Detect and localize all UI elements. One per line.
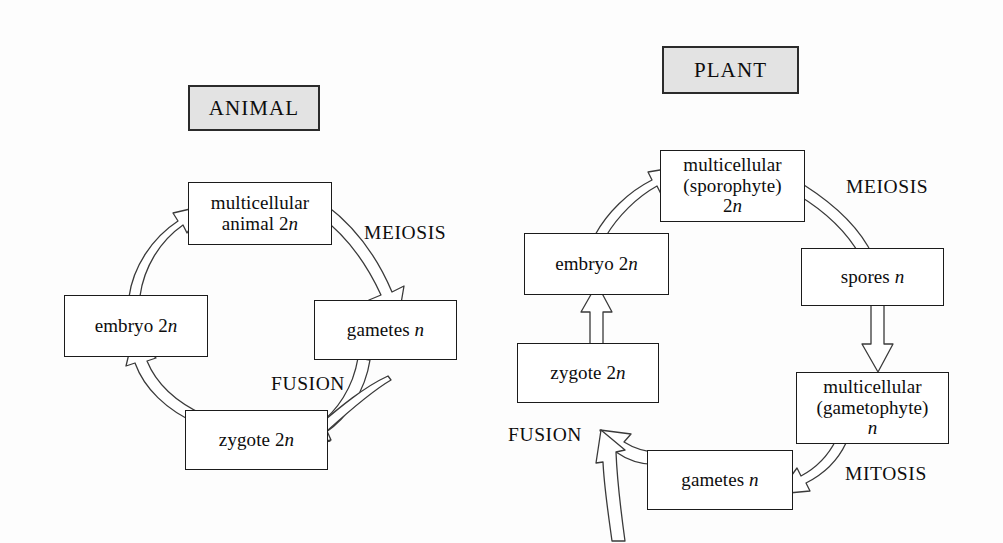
plant-node-spores: spores n <box>801 248 944 306</box>
animal-node-multicellular: multicellular animal 2n <box>188 182 332 245</box>
animal-node-zygote: zygote 2n <box>185 410 328 470</box>
plant-node-zygote-label: zygote 2n <box>546 363 629 384</box>
plant-label-meiosis: MEIOSIS <box>846 176 928 198</box>
animal-label-fusion: FUSION <box>271 373 345 395</box>
plant-node-gametophyte: multicellular (gametophyte) n <box>796 372 949 444</box>
plant-node-embryo: embryo 2n <box>524 233 669 295</box>
plant-node-gametes-label: gametes n <box>677 470 762 491</box>
plant-header-label: PLANT <box>694 58 767 83</box>
animal-node-gametes-label: gametes n <box>343 320 428 341</box>
plant-arrow-fusion-tail <box>596 430 625 541</box>
animal-node-multicellular-label: multicellular animal 2n <box>207 193 313 234</box>
plant-node-gametophyte-label: multicellular (gametophyte) n <box>812 377 932 439</box>
plant-header-box: PLANT <box>662 46 799 94</box>
plant-node-spores-label: spores n <box>837 267 909 288</box>
animal-node-zygote-label: zygote 2n <box>215 430 298 451</box>
animal-header-label: ANIMAL <box>209 96 300 121</box>
animal-node-embryo-label: embryo 2n <box>91 316 182 337</box>
plant-node-gametes: gametes n <box>647 450 793 510</box>
life-cycle-diagram: ANIMAL multicellular animal 2n gametes n… <box>0 0 1003 543</box>
animal-node-embryo: embryo 2n <box>64 295 208 357</box>
plant-node-sporophyte: multicellular (sporophyte) 2n <box>660 150 805 222</box>
plant-node-embryo-label: embryo 2n <box>551 254 642 275</box>
plant-label-fusion: FUSION <box>508 424 582 446</box>
animal-node-gametes: gametes n <box>314 300 457 360</box>
plant-arrow-spores-gametophyte <box>862 302 893 372</box>
animal-label-meiosis: MEIOSIS <box>364 222 446 244</box>
animal-header-box: ANIMAL <box>188 85 320 131</box>
plant-node-zygote: zygote 2n <box>517 343 659 403</box>
plant-label-mitosis: MITOSIS <box>845 463 927 485</box>
plant-node-sporophyte-label: multicellular (sporophyte) 2n <box>679 155 785 217</box>
